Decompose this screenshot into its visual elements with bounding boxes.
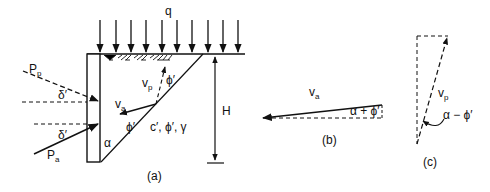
panel-b: va α + ϕ′ (b) [263,85,382,147]
c-angle-arc [423,119,444,126]
panel-a: q Pp δ′ δ′ Pa vp ϕ′ va ϕ′ c′, ϕ′ [22,4,245,183]
c-angle-label: α − ϕ′ [443,108,473,122]
c-velocity-label: vp [438,86,449,102]
retaining-wall [87,54,100,162]
passive-force-label: Pp [29,62,42,78]
panel-a-caption: (a) [147,169,162,183]
b-velocity-label: va [309,85,320,101]
retaining-wall-diagram: q Pp δ′ δ′ Pa vp ϕ′ va ϕ′ c′, ϕ′ [0,0,490,192]
velocity-active-label: va [115,97,126,113]
velocity-passive-label: vp [142,76,153,92]
wall-friction-lower-label: δ′ [58,128,68,142]
panel-c: vp α − ϕ′ (c) [417,36,473,169]
panel-c-caption: (c) [423,155,437,169]
wall-friction-upper-label: δ′ [58,88,68,102]
soil-parameters-label: c′, ϕ′, γ [150,120,187,134]
surcharge-label: q [165,4,172,18]
soil-hatching [104,55,172,60]
wedge-angle-label: α [104,136,111,150]
phi-passive-label: ϕ′ [166,73,176,87]
phi-active-label: ϕ′ [126,120,136,134]
b-angle-label: α + ϕ′ [350,104,380,118]
active-force-label: Pa [47,148,60,164]
panel-b-caption: (b) [322,133,337,147]
height-label: H [222,104,231,118]
surcharge-load-arrows [100,20,238,52]
